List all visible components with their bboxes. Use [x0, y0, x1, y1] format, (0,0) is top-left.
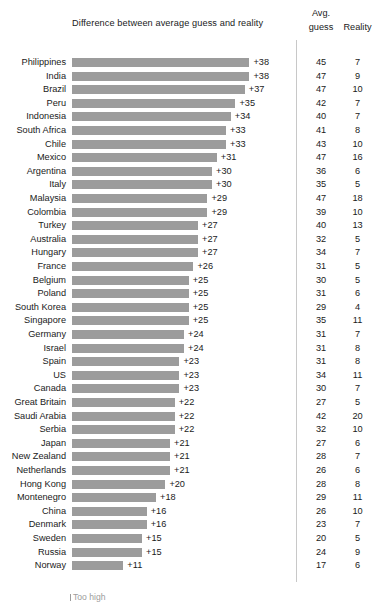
row-bar-value: +22 [179, 397, 195, 408]
row-reality-value: 7 [338, 57, 377, 68]
row-country-label: Turkey [0, 220, 66, 231]
row-bar-value: +21 [174, 438, 190, 449]
row-bar [72, 194, 207, 203]
row-bar-value: +23 [183, 370, 199, 381]
row-avg-guess-value: 34 [300, 370, 342, 381]
row-avg-guess-value: 47 [300, 152, 342, 163]
row-bar [72, 316, 189, 325]
row-country-label: France [0, 261, 66, 272]
row-avg-guess-value: 40 [300, 220, 342, 231]
table-row: India+38479 [0, 71, 377, 84]
row-bar [72, 167, 212, 176]
row-bar-value: +34 [235, 111, 251, 122]
table-row: Montenegro+182911 [0, 492, 377, 505]
table-row: Israel+24318 [0, 343, 377, 356]
row-country-label: Israel [0, 343, 66, 354]
row-bar-value: +26 [197, 261, 213, 272]
table-row: Netherlands+21266 [0, 465, 377, 478]
row-bar-value: +15 [146, 547, 162, 558]
row-avg-guess-value: 47 [300, 84, 342, 95]
row-bar-value: +27 [202, 247, 218, 258]
row-country-label: Norway [0, 560, 66, 571]
row-country-label: New Zealand [0, 451, 66, 462]
row-country-label: Russia [0, 547, 66, 558]
row-bar-value: +23 [183, 356, 199, 367]
table-row: Denmark+16237 [0, 519, 377, 532]
row-country-label: Germany [0, 329, 66, 340]
table-row: Canada+23307 [0, 383, 377, 396]
row-avg-guess-value: 23 [300, 519, 342, 530]
row-bar [72, 276, 189, 285]
row-bar [72, 248, 198, 257]
row-avg-guess-value: 40 [300, 111, 342, 122]
row-reality-value: 7 [338, 111, 377, 122]
table-row: Germany+24317 [0, 329, 377, 342]
row-reality-value: 5 [338, 397, 377, 408]
row-avg-guess-value: 31 [300, 343, 342, 354]
row-avg-guess-value: 26 [300, 506, 342, 517]
row-avg-guess-value: 45 [300, 57, 342, 68]
row-bar-value: +18 [160, 492, 176, 503]
row-country-label: Italy [0, 179, 66, 190]
row-bar [72, 99, 235, 108]
row-country-label: Japan [0, 438, 66, 449]
row-reality-value: 8 [338, 356, 377, 367]
row-reality-value: 7 [338, 451, 377, 462]
table-row: Poland+25316 [0, 288, 377, 301]
row-reality-value: 11 [338, 370, 377, 381]
row-avg-guess-value: 42 [300, 98, 342, 109]
row-bar-value: +38 [253, 57, 269, 68]
row-bar [72, 534, 142, 543]
row-avg-guess-value: 36 [300, 166, 342, 177]
row-avg-guess-value: 29 [300, 302, 342, 313]
row-avg-guess-value: 47 [300, 71, 342, 82]
row-country-label: Colombia [0, 207, 66, 218]
row-bar [72, 289, 189, 298]
row-avg-guess-value: 41 [300, 125, 342, 136]
row-bar-value: +31 [221, 152, 237, 163]
row-country-label: Mexico [0, 152, 66, 163]
row-country-label: Canada [0, 383, 66, 394]
row-bar [72, 262, 193, 271]
row-country-label: Singapore [0, 315, 66, 326]
row-bar [72, 72, 249, 81]
row-reality-value: 4 [338, 302, 377, 313]
row-country-label: Montenegro [0, 492, 66, 503]
row-country-label: Peru [0, 98, 66, 109]
row-bar [72, 85, 245, 94]
row-bar [72, 466, 170, 475]
row-country-label: Malaysia [0, 193, 66, 204]
row-reality-value: 6 [338, 438, 377, 449]
row-bar [72, 548, 142, 557]
row-bar-value: +25 [193, 288, 209, 299]
table-row: Argentina+30366 [0, 166, 377, 179]
row-bar-value: +33 [230, 125, 246, 136]
row-country-label: Great Britain [0, 397, 66, 408]
table-row: Italy+30355 [0, 179, 377, 192]
table-row: China+162610 [0, 506, 377, 519]
row-avg-guess-value: 31 [300, 329, 342, 340]
row-reality-value: 7 [338, 247, 377, 258]
row-country-label: Saudi Arabia [0, 411, 66, 422]
row-country-label: Brazil [0, 84, 66, 95]
row-bar-value: +27 [202, 220, 218, 231]
row-bar [72, 357, 179, 366]
row-bar [72, 221, 198, 230]
row-avg-guess-value: 39 [300, 207, 342, 218]
row-reality-value: 8 [338, 479, 377, 490]
table-row: Brazil+374710 [0, 84, 377, 97]
row-bar [72, 58, 249, 67]
table-row: Great Britain+22275 [0, 397, 377, 410]
row-reality-value: 13 [338, 220, 377, 231]
row-bar-value: +23 [183, 383, 199, 394]
row-bar [72, 439, 170, 448]
table-row: Spain+23318 [0, 356, 377, 369]
table-row: France+26315 [0, 261, 377, 274]
row-avg-guess-value: 24 [300, 547, 342, 558]
row-bar [72, 112, 231, 121]
table-row: Turkey+274013 [0, 220, 377, 233]
row-bar [72, 303, 189, 312]
row-bar-value: +11 [127, 560, 142, 571]
row-avg-guess-value: 26 [300, 465, 342, 476]
row-bar [72, 412, 175, 421]
